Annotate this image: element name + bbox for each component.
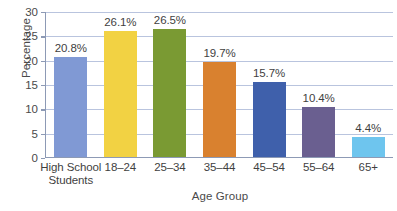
bar: 4.4% (352, 137, 385, 158)
plot-area: 20.8%26.1%26.5%19.7%15.7%10.4%4.4% (46, 12, 393, 158)
x-axis-category-label: 25–34 (154, 161, 185, 174)
bar-value-label: 26.5% (154, 14, 186, 26)
x-axis-category-label: 18–24 (105, 161, 136, 174)
y-axis-tick-label: 0 (8, 152, 38, 164)
bar-value-label: 19.7% (203, 47, 235, 59)
bar-chart: Percentage Age Group 20.8%26.1%26.5%19.7… (0, 0, 397, 211)
x-axis-line (46, 157, 393, 158)
y-axis-tick (41, 36, 45, 37)
x-axis-category-label: 65+ (359, 161, 378, 174)
y-axis-tick-label: 5 (8, 128, 38, 140)
y-axis-tick-label: 30 (8, 6, 38, 18)
bar: 20.8% (54, 57, 87, 158)
bar-value-label: 26.1% (104, 16, 136, 28)
y-axis-tick-label: 15 (8, 79, 38, 91)
bar-value-label: 4.4% (355, 122, 381, 134)
x-axis-title: Age Group (46, 190, 394, 202)
y-axis-tick (41, 134, 45, 135)
x-axis-category-label: High SchoolStudents (40, 161, 101, 187)
y-axis-line (45, 12, 46, 158)
x-axis-category-label: 45–54 (253, 161, 284, 174)
y-axis-tick-label: 20 (8, 55, 38, 67)
bar: 19.7% (203, 62, 236, 158)
y-axis-tick-label: 10 (8, 103, 38, 115)
gridline (46, 36, 393, 37)
y-axis-tick (41, 12, 45, 13)
y-axis-tick (41, 109, 45, 110)
y-axis-tick-label: 25 (8, 30, 38, 42)
bar-value-label: 15.7% (253, 67, 285, 79)
y-axis-tick (41, 85, 45, 86)
bar: 10.4% (302, 107, 335, 158)
bar: 26.5% (153, 29, 186, 158)
y-axis-tick (41, 158, 45, 159)
bar: 26.1% (104, 31, 137, 158)
x-axis-category-label: 55–64 (303, 161, 334, 174)
bar: 15.7% (253, 82, 286, 158)
bar-value-label: 10.4% (303, 92, 335, 104)
gridline (46, 12, 393, 13)
y-axis-tick (41, 61, 45, 62)
x-axis-category-label: 35–44 (204, 161, 235, 174)
bar-value-label: 20.8% (55, 42, 87, 54)
